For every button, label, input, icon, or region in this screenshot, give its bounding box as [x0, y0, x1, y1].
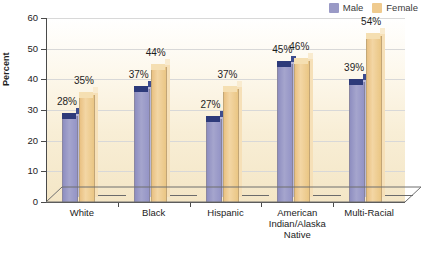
bar-value-label: 28% — [57, 97, 77, 107]
bar-top-face — [349, 79, 363, 85]
y-axis-tick-label: 50 — [16, 44, 38, 54]
y-axis-tick-label: 40 — [16, 74, 38, 84]
bar-chart: Male Female Percent 0102030405060 WhiteB… — [0, 0, 427, 256]
bar-top-side-face — [93, 87, 98, 93]
bar-top-face — [134, 86, 148, 92]
x-axis-category-label: Multi-Racial — [325, 207, 413, 218]
bar-male — [62, 18, 76, 202]
y-axis-tick — [41, 49, 46, 50]
bar-top-side-face — [308, 53, 313, 59]
y-axis-tick — [41, 141, 46, 142]
bar-male — [349, 18, 363, 202]
bar-top-side-face — [380, 28, 385, 34]
bar-value-label: 37% — [129, 70, 149, 80]
bar-value-label: 44% — [146, 48, 166, 58]
bar-top-face — [294, 58, 308, 64]
bar-value-label: 27% — [201, 100, 221, 110]
legend-label-female: Female — [386, 3, 418, 13]
bar-front-face — [134, 89, 150, 202]
floor-shadow-line — [242, 195, 270, 196]
y-axis-tick-label: 10 — [16, 166, 38, 176]
bar-top-face — [277, 61, 291, 67]
bar-top-face — [151, 64, 165, 70]
bar-male — [134, 18, 148, 202]
y-axis-tick — [41, 202, 46, 203]
bar-top-face — [206, 116, 220, 122]
bar-top-face — [62, 113, 76, 119]
bar-value-label: 37% — [218, 70, 238, 80]
legend-swatch-male-icon — [329, 3, 339, 13]
bar-value-label: 35% — [74, 76, 94, 86]
y-axis-title: Percent — [1, 52, 11, 86]
bar-value-label: 39% — [344, 63, 364, 73]
bar-value-label: 46% — [289, 42, 309, 52]
plot-area — [46, 18, 405, 202]
bar-front-face — [151, 67, 167, 202]
bar-top-face — [366, 33, 380, 39]
floor-shadow-line — [98, 195, 126, 196]
bar-female — [223, 18, 237, 202]
y-axis-tick-label: 20 — [16, 136, 38, 146]
bar-front-face — [206, 119, 222, 202]
legend-label-male: Male — [343, 3, 364, 13]
legend-item-male: Male — [329, 3, 364, 13]
y-axis-tick — [41, 110, 46, 111]
bar-top-side-face — [237, 81, 242, 87]
floor-shadow-line — [385, 195, 413, 196]
floor-shadow-line — [170, 195, 198, 196]
y-axis-tick — [41, 79, 46, 80]
legend-swatch-female-icon — [372, 3, 382, 13]
chart-legend: Male Female — [329, 3, 418, 13]
bar-front-face — [277, 64, 293, 202]
x-axis-line — [46, 202, 405, 203]
bar-female — [151, 18, 165, 202]
y-axis-tick-label: 60 — [16, 13, 38, 23]
bar-top-face — [79, 92, 93, 98]
bar-value-label: 54% — [361, 17, 381, 27]
bar-top-face — [223, 86, 237, 92]
bar-front-face — [366, 36, 382, 202]
bar-front-face — [349, 82, 365, 202]
bar-front-face — [62, 116, 78, 202]
floor-shadow-line — [313, 195, 341, 196]
y-axis-tick — [41, 18, 46, 19]
bar-female — [366, 18, 380, 202]
bar-front-face — [223, 89, 239, 202]
y-axis-tick — [41, 171, 46, 172]
bar-female — [79, 18, 93, 202]
legend-item-female: Female — [372, 3, 418, 13]
bar-top-side-face — [165, 59, 170, 65]
y-axis-tick-label: 0 — [16, 197, 38, 207]
y-axis-line — [46, 18, 47, 203]
bar-front-face — [294, 61, 310, 202]
y-axis-tick-label: 30 — [16, 105, 38, 115]
bar-front-face — [79, 95, 95, 202]
